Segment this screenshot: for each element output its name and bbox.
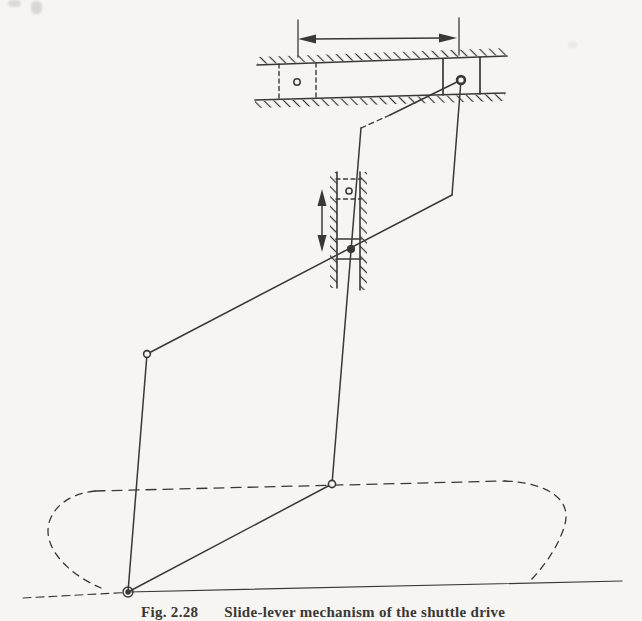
link-right-pin-to-pivot: [128, 484, 332, 592]
fixed-pivot-center: [125, 589, 130, 594]
capsule-top-edge: [95, 481, 505, 491]
arrowhead-left: [298, 35, 316, 44]
pin-top-slider: [457, 76, 465, 84]
pin-right-link: [328, 480, 335, 487]
capsule-left-cap: [48, 491, 101, 588]
figure-caption-label: Fig. 2.28: [141, 604, 198, 620]
figure-caption: Fig. 2.28Slide-lever mechanism of the sh…: [141, 604, 641, 621]
capsule-right-cap: [505, 481, 566, 580]
hatching-right-of-vertical-guide: [360, 172, 367, 290]
pin-previous-vertical-slider: [346, 188, 352, 194]
top-horizontal-guide: [255, 48, 507, 108]
top-slider-previous-position: [279, 63, 316, 100]
link-cornerB-to-left-pin: [147, 195, 452, 354]
linkage-links: [128, 80, 461, 592]
ground: [23, 581, 622, 598]
ground-line: [128, 581, 622, 592]
hatching-above-top-guide: [257, 48, 507, 64]
ground-line-dashed-extension: [23, 593, 126, 599]
link-top-to-cornerA-dashed: [361, 115, 390, 128]
arrow-shaft: [309, 38, 445, 39]
pin-joints: [123, 76, 465, 597]
arrowhead-down: [318, 235, 327, 252]
pin-left-link: [144, 351, 151, 358]
link-left-pin-to-pivot: [128, 354, 147, 592]
arrowhead-up: [318, 189, 327, 206]
arrowhead-right: [439, 34, 457, 43]
pin-vertical-slider: [348, 246, 355, 253]
figure-caption-text: Slide-lever mechanism of the shuttle dri…: [224, 604, 505, 620]
pin-previous-top-slider: [294, 79, 300, 85]
vertical-stroke-arrow: [318, 189, 327, 252]
hatching-left-of-vertical-guide: [330, 172, 337, 288]
